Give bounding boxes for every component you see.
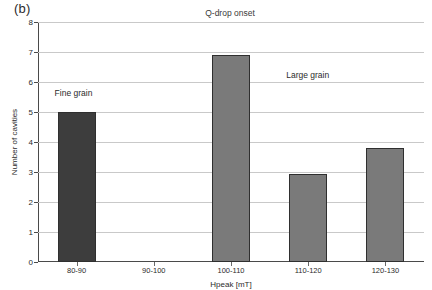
- y-tick-mark: [34, 172, 38, 173]
- bar: [366, 148, 404, 262]
- y-tick-mark: [34, 262, 38, 263]
- bar: [212, 55, 250, 262]
- y-tick-label: 1: [29, 228, 33, 237]
- x-tick-label: 100-110: [218, 266, 245, 275]
- chart-annotation: Large grain: [286, 70, 329, 80]
- y-axis-title: Number of cavities: [10, 109, 19, 175]
- y-tick-label: 2: [29, 198, 33, 207]
- x-tick-label: 80-90: [67, 266, 86, 275]
- bar: [58, 112, 96, 262]
- y-tick-mark: [34, 142, 38, 143]
- y-tick-mark: [34, 232, 38, 233]
- x-tick-label: 110-120: [295, 266, 322, 275]
- chart-title: Q-drop onset: [0, 8, 432, 18]
- x-axis-title: Hpeak [mT]: [38, 280, 424, 289]
- y-tick-label: 8: [29, 18, 33, 27]
- y-tick-mark: [34, 52, 38, 53]
- gridline: [38, 22, 424, 23]
- y-tick-label: 5: [29, 108, 33, 117]
- y-tick-mark: [34, 202, 38, 203]
- x-tick-label: 90-100: [142, 266, 165, 275]
- chart-annotation: Fine grain: [55, 88, 93, 98]
- y-tick-label: 0: [29, 258, 33, 267]
- y-tick-label: 3: [29, 168, 33, 177]
- plot-area: 012345678 80-9090-100100-110110-120120-1…: [38, 22, 424, 262]
- x-tick-label: 120-130: [372, 266, 400, 275]
- y-tick-mark: [34, 22, 38, 23]
- y-tick-label: 4: [29, 138, 33, 147]
- bar: [289, 174, 327, 263]
- y-tick-label: 6: [29, 78, 33, 87]
- y-tick-mark: [34, 82, 38, 83]
- y-tick-mark: [34, 112, 38, 113]
- gridline: [38, 52, 424, 53]
- figure-panel-b: (b) Q-drop onset 012345678 80-9090-10010…: [0, 0, 432, 290]
- y-tick-label: 7: [29, 48, 33, 57]
